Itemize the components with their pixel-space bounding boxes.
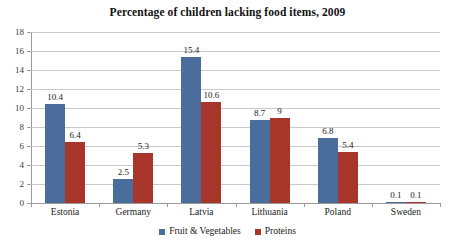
gridline [31,146,440,147]
bar-fruit-vegetables[interactable] [45,104,65,203]
x-axis-tick-mark [236,203,237,207]
x-axis-category-label: Sweden [372,208,440,218]
legend-item-proteins[interactable]: Proteins [255,227,296,237]
bar-value-label: 15.4 [175,46,207,55]
bar-value-label: 10.6 [195,91,227,100]
bar-value-label: 0.1 [400,191,432,200]
bar-proteins[interactable] [338,152,358,203]
plot-area [31,32,440,203]
bar-proteins[interactable] [65,142,85,203]
bar-value-label: 6.4 [59,131,91,140]
y-axis-tick-label: 8 [0,123,24,132]
x-axis-category-label: Latvia [167,208,235,218]
y-axis-tick-mark [27,127,31,128]
legend-swatch-icon [255,229,261,235]
y-axis-tick-mark [27,146,31,147]
legend-label: Proteins [265,227,296,237]
gridline [31,70,440,71]
x-axis-tick-mark [304,203,305,207]
bar-value-label: 5.4 [332,141,364,150]
y-axis-tick-mark [27,70,31,71]
legend-label: Fruit & Vegetables [169,227,241,237]
gridline [31,89,440,90]
y-axis-tick-mark [27,32,31,33]
bar-value-label: 5.3 [127,142,159,151]
bar-fruit-vegetables[interactable] [181,57,201,203]
y-axis-tick-label: 10 [0,104,24,113]
y-axis-tick-mark [27,89,31,90]
x-axis-tick-mark [99,203,100,207]
y-axis-tick-label: 12 [0,85,24,94]
gridline [31,184,440,185]
x-axis-category-label: Estonia [31,208,99,218]
x-axis-tick-mark [31,203,32,207]
y-axis-tick-label: 0 [0,199,24,208]
y-axis-tick-label: 4 [0,161,24,170]
y-axis-tick-label: 2 [0,180,24,189]
bar-value-label: 2.5 [107,168,139,177]
x-axis-tick-mark [440,203,441,207]
bar-proteins[interactable] [406,202,426,203]
legend-item-fruit-vegetables[interactable]: Fruit & Vegetables [159,227,241,237]
y-axis-tick-label: 14 [0,66,24,75]
gridline [31,51,440,52]
chart-title: Percentage of children lacking food item… [0,6,455,18]
bar-fruit-vegetables[interactable] [386,202,406,203]
y-axis-tick-mark [27,51,31,52]
bar-fruit-vegetables[interactable] [250,120,270,203]
bar-value-label: 6.8 [312,127,344,136]
x-axis-tick-mark [167,203,168,207]
y-axis-tick-mark [27,184,31,185]
chart-legend: Fruit & VegetablesProteins [0,227,455,237]
x-axis-category-label: Poland [304,208,372,218]
bar-chart: Percentage of children lacking food item… [0,0,455,245]
bar-proteins[interactable] [270,118,290,204]
gridline [31,108,440,109]
bar-value-label: 10.4 [39,93,71,102]
y-axis-tick-label: 18 [0,28,24,37]
bar-value-label: 9 [264,107,296,116]
x-axis-category-label: Germany [99,208,167,218]
gridline [31,165,440,166]
gridline [31,32,440,33]
bar-fruit-vegetables[interactable] [113,179,133,203]
y-axis-tick-mark [27,165,31,166]
x-axis-category-label: Lithuania [236,208,304,218]
y-axis-tick-labels: 181614121086420 [0,0,24,245]
y-axis-tick-label: 16 [0,47,24,56]
legend-swatch-icon [159,229,165,235]
bar-proteins[interactable] [133,153,153,203]
gridline [31,127,440,128]
y-axis-tick-label: 6 [0,142,24,151]
x-axis-tick-mark [372,203,373,207]
bar-proteins[interactable] [201,102,221,203]
y-axis-tick-mark [27,108,31,109]
